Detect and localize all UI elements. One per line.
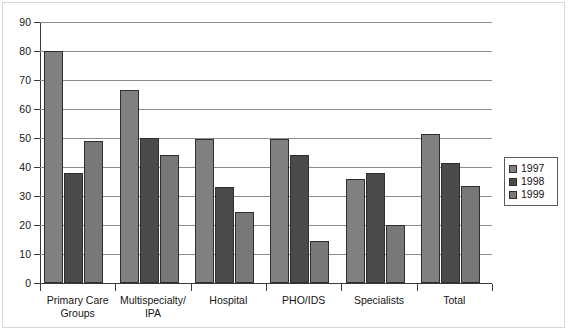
bar-1997-1 bbox=[120, 90, 139, 283]
x-tick-mark bbox=[492, 284, 493, 291]
bar-1997-2 bbox=[195, 139, 214, 283]
category-label-0: Primary CareGroups bbox=[34, 294, 121, 319]
gridline bbox=[40, 22, 492, 23]
bar-1999-2 bbox=[235, 212, 254, 283]
bar-1997-4 bbox=[346, 179, 365, 283]
x-tick-mark bbox=[115, 284, 116, 291]
x-tick-mark bbox=[417, 284, 418, 291]
x-tick-mark bbox=[191, 284, 192, 291]
bar-1999-1 bbox=[160, 155, 179, 283]
y-tick-label: 10 bbox=[2, 249, 31, 260]
legend-item-1997[interactable]: 1997 bbox=[509, 162, 553, 175]
gridline bbox=[40, 80, 492, 81]
category-label-1: Multispecialty/IPA bbox=[109, 294, 196, 319]
gridline bbox=[40, 109, 492, 110]
bar-1998-0 bbox=[64, 173, 83, 283]
bar-1999-4 bbox=[386, 225, 405, 283]
category-label-line: Multispecialty/ bbox=[109, 294, 196, 307]
legend: 199719981999 bbox=[504, 157, 558, 206]
bar-1999-3 bbox=[310, 241, 329, 283]
legend-label: 1997 bbox=[521, 163, 544, 174]
y-tick-label: 40 bbox=[2, 162, 31, 173]
y-tick-label: 20 bbox=[2, 220, 31, 231]
y-tick-label: 30 bbox=[2, 191, 31, 202]
category-label-line: Specialists bbox=[335, 294, 422, 307]
legend-label: 1999 bbox=[521, 189, 544, 200]
x-tick-mark bbox=[341, 284, 342, 291]
plot-area bbox=[40, 22, 492, 283]
gridline bbox=[40, 51, 492, 52]
category-label-2: Hospital bbox=[185, 294, 272, 307]
y-tick-label: 50 bbox=[2, 133, 31, 144]
bar-1998-1 bbox=[140, 138, 159, 283]
y-tick-label: 60 bbox=[2, 104, 31, 115]
category-label-4: Specialists bbox=[335, 294, 422, 307]
x-tick-mark bbox=[266, 284, 267, 291]
bar-1998-2 bbox=[215, 187, 234, 283]
legend-item-1999[interactable]: 1999 bbox=[509, 188, 553, 201]
bar-1997-3 bbox=[270, 139, 289, 283]
category-label-line: Primary Care bbox=[34, 294, 121, 307]
bar-1997-5 bbox=[421, 134, 440, 283]
category-label-5: Total bbox=[411, 294, 498, 307]
legend-swatch-icon bbox=[509, 178, 517, 186]
bar-1999-0 bbox=[84, 141, 103, 283]
x-tick-mark bbox=[40, 284, 41, 291]
y-tick-label: 80 bbox=[2, 46, 31, 57]
bar-chart: 0102030405060708090 Primary CareGroupsMu… bbox=[0, 0, 569, 332]
legend-swatch-icon bbox=[509, 191, 517, 199]
legend-item-1998[interactable]: 1998 bbox=[509, 175, 553, 188]
bar-1998-3 bbox=[290, 155, 309, 283]
category-label-line: Groups bbox=[34, 307, 121, 320]
bar-1999-5 bbox=[461, 186, 480, 283]
category-label-3: PHO/IDS bbox=[260, 294, 347, 307]
y-tick-label: 70 bbox=[2, 75, 31, 86]
bar-1998-5 bbox=[441, 163, 460, 283]
legend-swatch-icon bbox=[509, 165, 517, 173]
category-label-line: PHO/IDS bbox=[260, 294, 347, 307]
legend-label: 1998 bbox=[521, 176, 544, 187]
category-label-line: IPA bbox=[109, 307, 196, 320]
bar-1998-4 bbox=[366, 173, 385, 283]
category-label-line: Hospital bbox=[185, 294, 272, 307]
y-tick-label: 90 bbox=[2, 17, 31, 28]
category-label-line: Total bbox=[411, 294, 498, 307]
bar-1997-0 bbox=[44, 51, 63, 283]
y-tick-label: 0 bbox=[2, 278, 31, 289]
